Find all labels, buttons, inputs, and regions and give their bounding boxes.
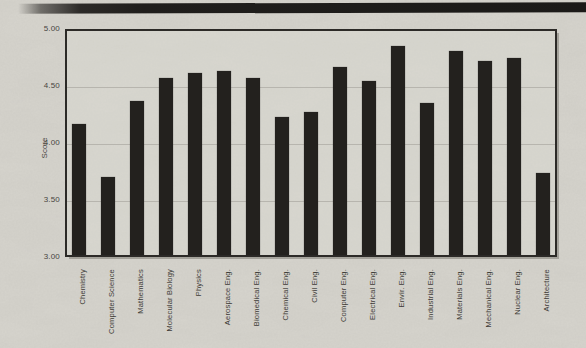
bar: [507, 58, 521, 256]
x-tick-label-text: Molecular Biology: [165, 269, 174, 332]
y-tick-label: 3.00: [0, 252, 60, 261]
y-tick-label: 4.50: [0, 81, 60, 90]
x-tick-label-text: Civil Eng.: [310, 269, 319, 303]
x-tick-label-text: Biomedical Eng.: [252, 269, 261, 326]
bar: [188, 73, 202, 255]
bar: [246, 78, 260, 255]
bar: [275, 117, 289, 255]
bar: [362, 81, 376, 255]
x-tick-label-text: Chemical Eng.: [281, 269, 290, 320]
y-tick-label: 3.50: [0, 195, 60, 204]
scan-artifact-strip: [18, 2, 586, 13]
x-tick-label-text: Computer Science: [107, 269, 116, 334]
x-tick-label-text: Chemistry: [78, 269, 87, 305]
bar: [72, 124, 86, 255]
scanned-page: Score 5.004.504.003.503.00ChemistryCompu…: [0, 0, 586, 348]
x-tick-label-text: Mechanical Eng.: [483, 269, 492, 327]
x-tick-label-text: Mathematics: [136, 269, 145, 314]
y-tick-label: 4.00: [0, 138, 60, 147]
bar: [159, 78, 173, 255]
bar: [130, 101, 144, 255]
bar: [101, 177, 115, 255]
y-tick-label: 5.00: [0, 24, 60, 33]
x-tick-label-text: Physics: [194, 269, 203, 296]
bar: [449, 51, 463, 255]
x-tick-label-text: Electrical Eng.: [367, 269, 376, 320]
x-tick-label-text: Envir. Eng.: [396, 269, 405, 307]
bar: [391, 46, 405, 255]
x-tick-label-text: Nuclear Eng.: [512, 269, 521, 315]
bar: [333, 67, 347, 255]
bar: [217, 71, 231, 255]
plot-area: [65, 29, 557, 257]
bar: [478, 61, 492, 255]
bar: [420, 103, 434, 255]
x-tick-label-text: Architecture: [541, 269, 550, 311]
bar: [536, 173, 550, 255]
x-tick-label-text: Computer Eng.: [338, 269, 347, 322]
bar: [304, 112, 318, 255]
x-tick-label-text: Materials Eng.: [454, 269, 463, 320]
x-tick-label-text: Industrial Eng.: [425, 269, 434, 320]
x-tick-label-text: Aerospace Eng.: [223, 269, 232, 325]
